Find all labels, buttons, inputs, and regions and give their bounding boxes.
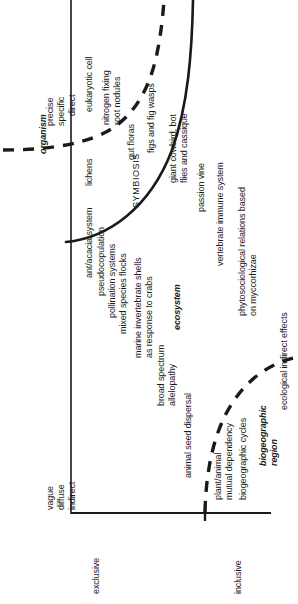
axis-label-specific: specific	[56, 97, 67, 126]
example-label-nitrogen-fixing-root-nodules: nitrogen fixing root nodules	[101, 70, 123, 125]
specificity-inclusiveness-diagram: precise specific direct vague diffuse in…	[0, 0, 298, 604]
example-label-mixed-species-flocks: mixed species flocks	[118, 253, 129, 334]
example-label-giant-cowbird: giant cowbird, bot flies and cassique	[168, 113, 190, 183]
level-label-biogeographic-region: biogeographic region	[258, 405, 280, 466]
example-label-biogeographic-cycles: biogeographic cycles	[238, 418, 249, 500]
example-label-passion-vine: passion vine	[196, 163, 207, 212]
region-label-symbiosis: SYMBIOSIS	[131, 153, 142, 208]
example-label-gut-floras: gut floras	[126, 124, 137, 160]
example-label-vertebrate-immune-system: vertebrate immune system	[215, 162, 226, 266]
level-label-organism: organism	[38, 114, 49, 154]
example-label-ant-acacia-system: ant/acacia system	[84, 208, 95, 278]
axis-label-indirect: indirect	[67, 482, 78, 510]
axis-label-direct: direct	[67, 95, 78, 116]
example-label-pollination-systems: pollination systems	[107, 244, 118, 318]
example-label-phytosociological-relations: phytosociological relations based on myc…	[237, 187, 259, 316]
example-label-broad-spectrum-allelopathy: broad spectrum allelopathy	[156, 345, 178, 406]
example-label-lichens: lichens	[84, 159, 95, 186]
level-label-ecosystem: ecosystem	[172, 284, 183, 330]
axis-label-exclusive: exclusive	[91, 558, 102, 594]
example-label-marine-invertebrate-shells: marine invertebrate shells as response t…	[133, 258, 155, 358]
example-label-animal-seed-dispersal: animal seed dispersal	[183, 393, 194, 478]
example-label-plant-animal-mutual-dependency: plant/animal mutual dependency	[213, 423, 235, 500]
axis-label-inclusive: inclusive	[233, 560, 244, 594]
example-label-pseudocopulation: pseudocopulation	[96, 227, 107, 296]
axis-label-diffuse: diffuse	[56, 484, 67, 510]
example-label-ecological-indirect-effects: ecological indirect effects	[279, 312, 290, 410]
axis-label-vague: vague	[45, 486, 56, 510]
example-label-figs-and-fig-wasps: figs and fig wasps	[146, 83, 157, 153]
example-label-eukaryotic-cell: eukaryotic cell	[84, 56, 95, 112]
